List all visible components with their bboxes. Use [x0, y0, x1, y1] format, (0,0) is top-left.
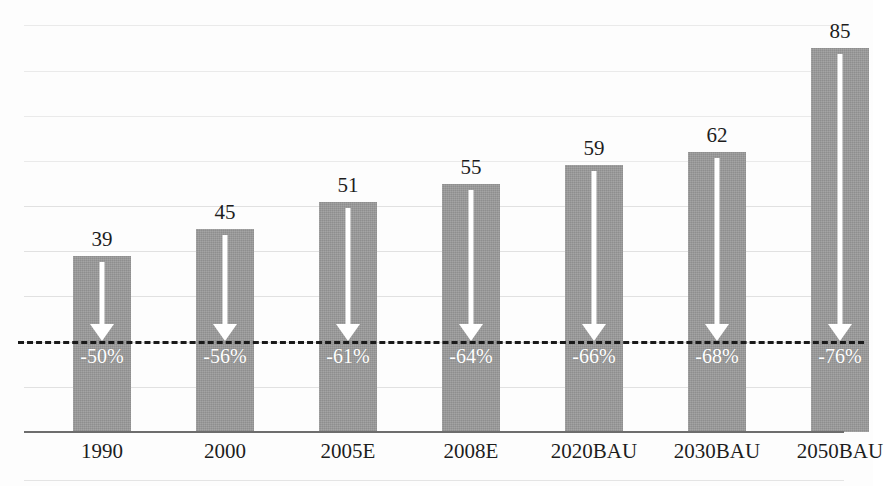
reduction-arrow-icon — [213, 235, 237, 341]
bar-group[interactable]: 51-61% — [319, 202, 377, 432]
bar-value-label: 39 — [53, 229, 151, 250]
reduction-percent-label: -64% — [433, 346, 509, 366]
reduction-percent-label: -76% — [802, 346, 878, 366]
bar-group[interactable]: 85-76% — [811, 48, 869, 432]
reduction-percent-label: -61% — [310, 346, 386, 366]
bar-value-label: 59 — [545, 138, 643, 159]
bar-value-label: 45 — [176, 202, 274, 223]
reduction-percent-label: -68% — [679, 346, 755, 366]
reduction-arrow-icon — [705, 158, 729, 341]
bottom-rule — [24, 480, 844, 481]
reduction-percent-label: -56% — [187, 346, 263, 366]
reduction-percent-label: -50% — [64, 346, 140, 366]
arrow-head — [213, 324, 237, 341]
target-reduction-dashed-line — [18, 341, 864, 344]
arrow-shaft — [715, 158, 720, 324]
bar-value-label: 55 — [422, 157, 520, 178]
arrow-head — [336, 324, 360, 341]
arrow-head — [828, 324, 852, 341]
bar-group[interactable]: 59-66% — [565, 165, 623, 432]
x-axis-tick-label: 2050BAU — [765, 441, 888, 462]
bar-group[interactable]: 55-64% — [442, 184, 500, 432]
arrow-shaft — [838, 54, 843, 324]
arrow-shaft — [592, 171, 597, 324]
bar-group[interactable]: 62-68% — [688, 152, 746, 432]
x-axis-line — [24, 431, 844, 433]
arrow-shaft — [469, 190, 474, 324]
reduction-arrow-icon — [90, 262, 114, 341]
arrow-head — [90, 324, 114, 341]
bar-value-label: 62 — [668, 125, 766, 146]
arrow-shaft — [223, 235, 228, 324]
reduction-arrow-icon — [582, 171, 606, 341]
arrow-head — [582, 324, 606, 341]
reduction-percent-label: -66% — [556, 346, 632, 366]
reduction-arrow-icon — [336, 208, 360, 341]
bar-group[interactable]: 45-56% — [196, 229, 254, 432]
reduction-arrow-icon — [459, 190, 483, 341]
arrow-head — [705, 324, 729, 341]
reduction-arrow-icon — [828, 54, 852, 341]
arrow-head — [459, 324, 483, 341]
arrow-shaft — [100, 262, 105, 324]
bar-value-label: 51 — [299, 175, 397, 196]
arrow-shaft — [346, 208, 351, 324]
bar-value-label: 85 — [791, 21, 888, 42]
